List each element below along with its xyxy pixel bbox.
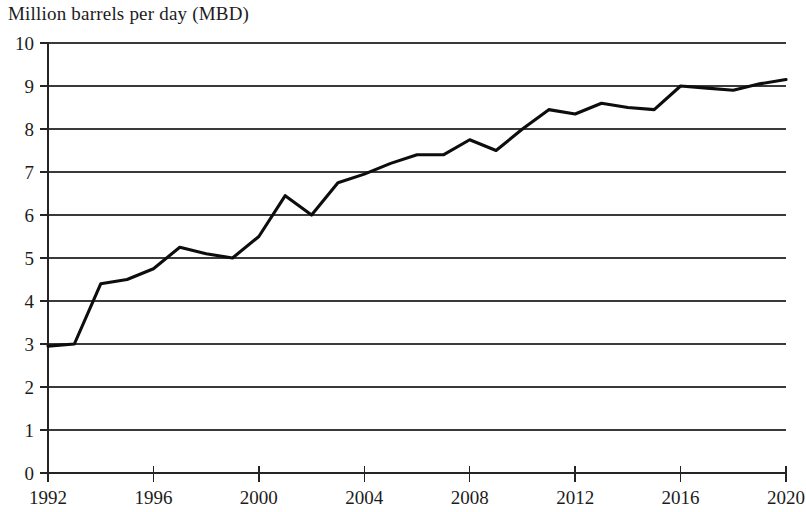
x-axis-tick-labels: 19921996200020042008201220162020: [29, 487, 805, 508]
y-tick-label: 5: [25, 248, 35, 269]
y-tick-label: 6: [25, 205, 35, 226]
data-series-line: [48, 80, 786, 347]
y-tick-label: 7: [25, 162, 35, 183]
y-axis-tick-labels: 012345678910: [15, 33, 35, 484]
x-tick-label: 2020: [767, 487, 805, 508]
line-chart-plot: 012345678910 199219962000200420082012201…: [0, 0, 806, 512]
x-axis-ticks: [48, 466, 786, 482]
x-tick-label: 2016: [662, 487, 700, 508]
x-tick-label: 2000: [240, 487, 278, 508]
x-tick-label: 1996: [134, 487, 172, 508]
y-tick-label: 0: [25, 463, 35, 484]
x-tick-label: 2008: [451, 487, 489, 508]
y-tick-label: 8: [25, 119, 35, 140]
gridlines: [48, 43, 786, 430]
x-tick-label: 2012: [556, 487, 594, 508]
y-tick-label: 2: [25, 377, 35, 398]
x-tick-label: 2004: [345, 487, 384, 508]
x-tick-label: 1992: [29, 487, 67, 508]
y-tick-label: 1: [25, 420, 35, 441]
y-tick-label: 10: [15, 33, 34, 54]
chart-figure: Million barrels per day (MBD) 0123456789…: [0, 0, 806, 512]
y-tick-label: 4: [25, 291, 35, 312]
y-tick-label: 3: [25, 334, 35, 355]
y-tick-label: 9: [25, 76, 35, 97]
